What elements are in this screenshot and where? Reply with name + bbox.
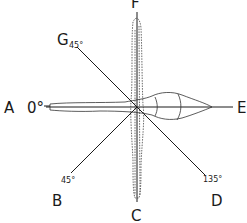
angle-d: 135° (203, 175, 222, 184)
label-f: F (131, 0, 140, 12)
label-d: D (211, 192, 223, 210)
label-b: B (52, 192, 62, 210)
angle-b: 45° (61, 176, 75, 185)
label-c: C (131, 207, 141, 223)
label-g: G (57, 31, 69, 49)
orientation-diagram: F G 45° A 0° E 45° B 135° D C (0, 0, 247, 223)
label-e: E (237, 99, 246, 117)
angle-g: 45° (69, 41, 83, 50)
label-a: A (4, 99, 15, 117)
angle-a: 0° (27, 99, 44, 117)
axis-line-b (71, 107, 137, 173)
